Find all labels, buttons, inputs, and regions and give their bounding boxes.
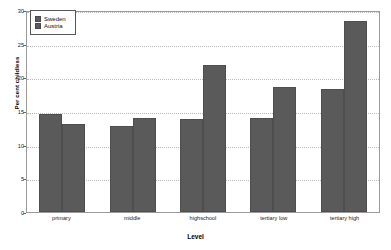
bar[interactable] — [180, 119, 203, 212]
bar[interactable] — [250, 118, 273, 212]
x-tick-label: tertiary high — [309, 215, 380, 221]
y-tick-mark — [23, 45, 26, 46]
legend-item[interactable]: Austria — [35, 23, 66, 29]
bar-group — [238, 12, 308, 212]
bar[interactable] — [344, 21, 367, 212]
y-tick-label: 5 — [0, 176, 24, 182]
y-tick-label: 10 — [0, 143, 24, 149]
y-tick-label: 25 — [0, 42, 24, 48]
legend-swatch-icon — [35, 23, 41, 29]
y-tick-label: 0 — [0, 210, 24, 216]
legend: Sweden Austria — [30, 10, 76, 35]
bar-group — [27, 12, 97, 212]
y-tick-mark — [23, 11, 26, 12]
y-tick-mark — [23, 179, 26, 180]
bar[interactable] — [39, 114, 62, 212]
bar[interactable] — [110, 126, 133, 212]
bar-group — [309, 12, 379, 212]
y-axis-title: Per cent childless — [14, 33, 20, 133]
bar[interactable] — [321, 89, 344, 212]
y-tick-mark — [23, 213, 26, 214]
y-tick-mark — [23, 112, 26, 113]
legend-label: Austria — [44, 23, 63, 29]
plot-area — [26, 11, 380, 213]
y-tick-mark — [23, 78, 26, 79]
y-tick-label: 30 — [0, 8, 24, 14]
x-axis-ticks: primarymiddlehighschooltertiary lowterti… — [26, 215, 380, 221]
x-tick-label: tertiary low — [238, 215, 309, 221]
y-tick-mark — [23, 146, 26, 147]
bar-chart: Per cent childless 051015202530 primarym… — [0, 0, 391, 250]
bar[interactable] — [273, 87, 296, 212]
legend-label: Sweden — [44, 16, 66, 22]
bar-groups — [27, 12, 379, 212]
legend-item[interactable]: Sweden — [35, 16, 66, 22]
y-tick-label: 15 — [0, 109, 24, 115]
x-tick-label: middle — [97, 215, 168, 221]
bar[interactable] — [62, 124, 85, 212]
bar-group — [168, 12, 238, 212]
bar[interactable] — [133, 118, 156, 212]
x-tick-label: highschool — [168, 215, 239, 221]
x-tick-label: primary — [26, 215, 97, 221]
x-axis-title: Level — [0, 233, 391, 240]
bar[interactable] — [203, 65, 226, 212]
legend-swatch-icon — [35, 16, 41, 22]
y-tick-label: 20 — [0, 75, 24, 81]
bar-group — [97, 12, 167, 212]
